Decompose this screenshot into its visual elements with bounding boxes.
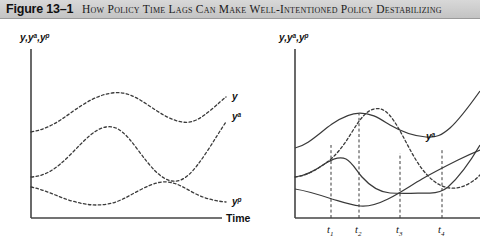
svg-text:y,ya,yp: y,ya,yp — [278, 32, 309, 44]
right-xtick-t3: t3 — [396, 224, 403, 238]
right-curve-dashed — [295, 109, 480, 189]
right-xtick-t2-sub: 2 — [358, 230, 362, 238]
right-chart-panel: y,ya,yp ya — [278, 19, 480, 249]
svg-text:t1: t1 — [327, 224, 333, 238]
figure-page: Figure 13–1 How Policy Time Lags Can Mak… — [0, 0, 480, 249]
left-ylabel-base2: ,y — [36, 32, 46, 43]
svg-text:ya: ya — [231, 111, 242, 123]
left-ylabel-base1: y,y — [19, 32, 34, 43]
svg-text:t3: t3 — [396, 224, 403, 238]
svg-text:t2: t2 — [355, 224, 362, 238]
left-series-label-y-base: y — [231, 91, 238, 102]
right-xtick-t4-sub: 4 — [441, 230, 445, 238]
svg-text:t4: t4 — [438, 224, 445, 238]
right-ylabel-sup2: p — [304, 32, 309, 40]
svg-text:y: y — [231, 91, 238, 102]
right-xtick-t1: t1 — [327, 224, 333, 238]
figure-number-label: Figure 13–1 — [6, 2, 73, 16]
right-xtick-t4: t4 — [438, 224, 445, 238]
left-chart-svg: y,ya,yp y ya — [0, 19, 278, 249]
left-y-axis-label: y,ya,yp — [19, 32, 50, 44]
right-ylabel-base2: ,y — [295, 32, 305, 43]
left-curve-y — [31, 93, 226, 132]
left-x-axis-label: Time — [226, 212, 250, 224]
svg-text:yp: yp — [231, 196, 242, 208]
right-chart-svg: y,ya,yp ya — [278, 19, 480, 249]
left-chart-panel: y,ya,yp y ya — [0, 19, 278, 249]
right-curve-middle-solid — [295, 145, 480, 193]
right-curve-lower-solid — [295, 150, 480, 206]
right-y-axis-label: y,ya,yp — [278, 32, 309, 44]
right-ylabel-base1: y,y — [278, 32, 293, 43]
left-series-label-y: y — [231, 91, 238, 102]
left-curve-y-potential — [31, 182, 226, 205]
left-series-label-y-expected: ya — [231, 111, 242, 123]
right-curve-upper-solid — [295, 91, 480, 148]
right-xtick-t1-sub: 1 — [330, 230, 334, 238]
svg-text:y,ya,yp: y,ya,yp — [19, 32, 50, 44]
left-ylabel-sup2: p — [45, 32, 50, 40]
left-series-label-y-potential: yp — [231, 196, 242, 208]
left-curve-y-expected — [31, 122, 226, 181]
right-xtick-t3-sub: 3 — [398, 230, 403, 238]
right-xtick-t2: t2 — [355, 224, 362, 238]
right-annotation-y-expected: ya — [425, 131, 436, 143]
svg-text:ya: ya — [425, 131, 436, 143]
figure-title-label: How Policy Time Lags Can Make Well-Inten… — [82, 3, 442, 15]
right-annotation-ya-sup: a — [432, 131, 436, 138]
svg-text:Time: Time — [226, 212, 250, 224]
left-series-label-yp-sup: p — [237, 196, 242, 204]
left-series-label-ya-sup: a — [238, 111, 242, 118]
